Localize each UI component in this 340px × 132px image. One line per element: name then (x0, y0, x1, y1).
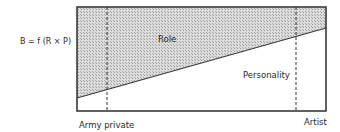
formula-label: B = f (R × P) (20, 38, 71, 46)
artist-label: Artist (304, 118, 327, 127)
role-label: Role (158, 35, 176, 44)
army-private-label: Army private (79, 121, 134, 130)
role-personality-diagram (0, 0, 340, 132)
personality-label: Personality (243, 71, 290, 80)
